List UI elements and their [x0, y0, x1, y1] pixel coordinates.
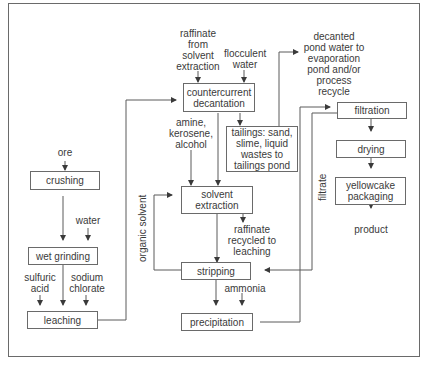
box-crushing: crushing — [30, 171, 100, 190]
box-stripping-label: stripping — [197, 266, 235, 277]
label-organic-solvent: organic solvent — [137, 195, 148, 262]
box-tailings-label: tailings: sand, slime, liquid wastes to … — [231, 127, 292, 171]
box-filtration-label: filtration — [354, 105, 389, 116]
label-ammonia: ammonia — [222, 283, 268, 294]
box-leaching-label: leaching — [44, 315, 81, 326]
label-ore: ore — [52, 147, 78, 158]
box-crushing-label: crushing — [46, 175, 84, 186]
label-water: water — [73, 215, 103, 226]
box-drying-label: drying — [357, 144, 384, 155]
label-product: product — [350, 224, 392, 235]
label-filtrate: filtrate — [317, 174, 328, 201]
box-leaching: leaching — [27, 311, 98, 329]
box-solvent-extraction: solvent extraction — [181, 186, 253, 214]
box-ccd-label: countercurrent decantation — [187, 87, 251, 109]
label-sulfuric-acid: sulfuric acid — [22, 272, 58, 294]
box-stripping: stripping — [181, 262, 251, 280]
label-flocculent-water: flocculent water — [224, 48, 266, 70]
box-drying: drying — [336, 140, 406, 158]
box-precipitation-label: precipitation — [190, 317, 244, 328]
box-tailings: tailings: sand, slime, liquid wastes to … — [226, 126, 298, 172]
box-wet-grinding: wet grinding — [28, 247, 98, 265]
label-raffinate-from-sx: raffinate from solvent extraction — [176, 28, 220, 72]
box-countercurrent-decantation: countercurrent decantation — [183, 83, 255, 112]
box-filtration: filtration — [337, 102, 407, 119]
label-raffinate-recycled: raffinate recycled to leaching — [224, 224, 280, 257]
label-sodium-chlorate: sodium chlorate — [68, 272, 106, 294]
label-decanted-pond-water: decanted pond water to evaporation pond … — [300, 31, 368, 97]
box-yellowcake-label: yellowcake packaging — [346, 180, 395, 202]
box-sx-label: solvent extraction — [195, 189, 238, 211]
box-wet-grinding-label: wet grinding — [36, 251, 90, 262]
box-precipitation: precipitation — [181, 313, 253, 331]
box-yellowcake-packaging: yellowcake packaging — [335, 177, 406, 205]
label-amine-kerosene-alcohol: amine, kerosene, alcohol — [168, 117, 214, 150]
